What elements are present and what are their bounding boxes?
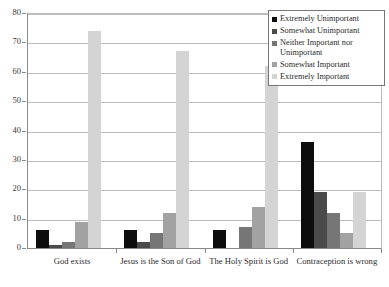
bar — [239, 227, 252, 248]
legend-item: Extremely Important — [272, 72, 381, 82]
legend-item-label: Neither Important nor Unimportant — [280, 38, 381, 57]
bar-chart: 80706050403020100 God existsJesus is the… — [0, 0, 389, 287]
bar — [314, 192, 327, 248]
bar — [340, 233, 353, 248]
y-axis-tick-mark — [22, 72, 26, 73]
bar — [327, 213, 340, 248]
chart-legend: Extremely UnimportantSomewhat Unimportan… — [268, 10, 385, 86]
bar — [62, 242, 75, 248]
y-axis-tick-label: 40 — [0, 126, 21, 135]
y-axis-tick-label: 0 — [0, 243, 21, 252]
y-axis-tick-mark — [22, 219, 26, 220]
bar-group — [124, 13, 189, 248]
bar — [75, 222, 88, 248]
y-axis-tick-mark — [22, 131, 26, 132]
legend-item: Neither Important nor Unimportant — [272, 38, 381, 57]
y-axis-tick-mark — [22, 248, 26, 249]
y-axis-tick-label: 70 — [0, 37, 21, 46]
legend-item-label: Somewhat Important — [280, 60, 350, 70]
legend-swatch-icon — [272, 74, 277, 79]
y-axis-tick-mark — [22, 42, 26, 43]
bar — [36, 230, 49, 248]
x-axis-tick-mark — [205, 249, 206, 253]
x-axis-category-label: God exists — [24, 256, 120, 267]
legend-swatch-icon — [272, 62, 277, 67]
y-axis-tick-label: 20 — [0, 184, 21, 193]
y-axis-tick-label: 50 — [0, 96, 21, 105]
legend-swatch-icon — [272, 29, 277, 34]
legend-item-label: Somewhat Unimportant — [280, 26, 360, 36]
legend-item: Extremely Unimportant — [272, 14, 381, 24]
x-axis-category-label: Contraception is wrong — [289, 256, 385, 267]
bar — [124, 230, 137, 248]
bar — [163, 213, 176, 248]
y-axis-tick-mark — [22, 101, 26, 102]
bar — [137, 242, 150, 248]
bar — [265, 66, 278, 248]
x-axis-category-label: The Holy Spirit is God — [201, 256, 297, 267]
y-axis-tick-label: 60 — [0, 67, 21, 76]
bar — [213, 230, 226, 248]
bar — [176, 51, 189, 248]
bar — [88, 31, 101, 248]
bar — [150, 233, 163, 248]
bar — [252, 207, 265, 248]
x-axis-tick-mark — [116, 249, 117, 253]
legend-swatch-icon — [272, 41, 277, 46]
y-axis-tick-label: 30 — [0, 155, 21, 164]
legend-swatch-icon — [272, 17, 277, 22]
x-axis-category-label: Jesus is the Son of God — [112, 256, 208, 267]
y-axis-tick-label: 80 — [0, 8, 21, 17]
bar-group — [36, 13, 101, 248]
bar — [301, 142, 314, 248]
legend-item: Somewhat Important — [272, 60, 381, 70]
y-axis-tick-mark — [22, 189, 26, 190]
bar — [353, 192, 366, 248]
x-axis-tick-mark — [381, 249, 382, 253]
y-axis-tick-mark — [22, 13, 26, 14]
legend-item-label: Extremely Important — [280, 72, 349, 82]
y-axis-tick-label: 10 — [0, 214, 21, 223]
legend-item: Somewhat Unimportant — [272, 26, 381, 36]
bar — [49, 245, 62, 248]
y-axis-tick-mark — [22, 160, 26, 161]
legend-item-label: Extremely Unimportant — [280, 14, 359, 24]
x-axis-tick-mark — [293, 249, 294, 253]
